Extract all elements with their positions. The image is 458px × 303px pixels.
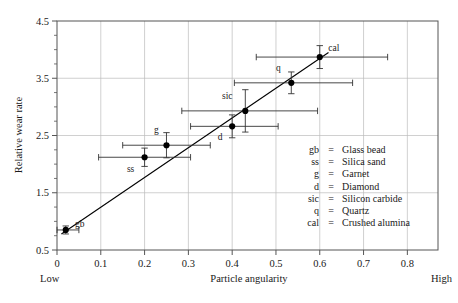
data-point-label-d: d — [218, 132, 223, 142]
data-point-label-gb: gb — [75, 219, 85, 229]
legend-code-gb: gb — [309, 144, 319, 155]
trend-line — [61, 52, 328, 233]
legend-code-ss: ss — [311, 156, 319, 167]
data-point-label-sic: sic — [222, 91, 233, 101]
scatter-plot-canvas: 00.10.20.30.40.50.60.70.80.51.52.53.54.5… — [0, 0, 458, 303]
data-point-label-cal: cal — [328, 43, 339, 53]
y-tick-label: 3.5 — [36, 73, 49, 84]
x-tick-label: 0.1 — [94, 258, 107, 269]
legend-row-gb: gb=Glass bead — [309, 144, 386, 155]
data-point-ss[interactable] — [141, 154, 147, 160]
point-labels: gbssgdsicqcal — [75, 43, 340, 229]
data-point-label-q: q — [276, 63, 281, 73]
grid-lines — [57, 21, 438, 250]
legend-equals-sign: = — [328, 181, 334, 192]
legend-name-g: Garnet — [342, 168, 369, 179]
tick-labels: 00.10.20.30.40.50.60.70.80.51.52.53.54.5 — [36, 16, 414, 270]
legend-row-g: g=Garnet — [314, 168, 369, 179]
x-axis-low-label: Low — [40, 273, 60, 284]
data-point-gb[interactable] — [63, 227, 69, 233]
data-point-g[interactable] — [163, 142, 169, 148]
legend-equals-sign: = — [328, 205, 334, 216]
legend-equals-sign: = — [328, 144, 334, 155]
legend-row-d: d=Diamond — [314, 181, 379, 192]
y-tick-label: 2.5 — [36, 130, 49, 141]
trendline — [61, 52, 328, 233]
legend-code-g: g — [314, 168, 319, 179]
x-tick-label: 0.4 — [226, 258, 240, 269]
data-point-cal[interactable] — [317, 54, 323, 60]
legend-name-sic: Silicon carbide — [342, 193, 403, 204]
x-tick-label: 0.2 — [138, 258, 151, 269]
legend-equals-sign: = — [328, 193, 334, 204]
y-tick-label: 0.5 — [36, 245, 49, 256]
data-point-label-ss: ss — [127, 164, 135, 174]
data-point-d[interactable] — [229, 123, 235, 129]
legend-name-d: Diamond — [342, 181, 379, 192]
x-tick-label: 0.6 — [313, 258, 326, 269]
legend-equals-sign: = — [328, 168, 334, 179]
y-tick-label: 4.5 — [36, 16, 49, 27]
legend-code-sic: sic — [308, 193, 320, 204]
wear-rate-angularity-figure: 00.10.20.30.40.50.60.70.80.51.52.53.54.5… — [0, 0, 458, 303]
x-tick-label: 0.3 — [182, 258, 195, 269]
x-axis-title: Particle angularity — [210, 273, 288, 284]
legend-row-sic: sic=Silicon carbide — [308, 193, 403, 204]
legend-name-cal: Crushed alumina — [342, 217, 411, 228]
x-tick-label: 0.7 — [357, 258, 370, 269]
data-point-q[interactable] — [288, 80, 294, 86]
error-bar-sic — [182, 90, 318, 132]
y-tick-label: 1.5 — [36, 187, 49, 198]
legend-row-cal: cal=Crushed alumina — [307, 217, 410, 228]
x-tick-label: 0 — [54, 258, 59, 269]
x-axis-high-label: High — [431, 273, 453, 284]
legend-name-q: Quartz — [342, 205, 370, 216]
y-axis-title: Relative wear rate — [13, 96, 24, 173]
legend-row-ss: ss=Silica sand — [311, 156, 385, 167]
legend-code-d: d — [314, 181, 319, 192]
legend-code-cal: cal — [307, 217, 319, 228]
data-point-sic[interactable] — [242, 108, 248, 114]
legend-equals-sign: = — [328, 156, 334, 167]
legend-name-gb: Glass bead — [342, 144, 386, 155]
legend-equals-sign: = — [328, 217, 334, 228]
x-tick-label: 0.5 — [269, 258, 282, 269]
x-tick-label: 0.8 — [401, 258, 414, 269]
legend-name-ss: Silica sand — [342, 156, 386, 167]
legend-code-q: q — [314, 205, 319, 216]
legend-row-q: q=Quartz — [314, 205, 370, 216]
legend: gb=Glass beadss=Silica sandg=Garnetd=Dia… — [307, 144, 410, 228]
data-point-label-g: g — [154, 125, 159, 135]
